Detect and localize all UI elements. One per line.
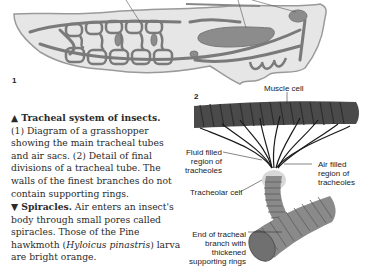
- figure-2-number: 2: [194, 92, 198, 101]
- triangle-up-icon: ▲: [11, 112, 18, 123]
- caption-tracheal-system: ▲ Tracheal system of insects. (1) Diagra…: [11, 112, 191, 200]
- label-tracheolar-cell: Tracheolar cell: [190, 188, 242, 197]
- caption-title: Spiracles.: [21, 201, 72, 212]
- triangle-down-icon: ▼: [11, 201, 18, 212]
- caption-title: Tracheal system of insects.: [21, 112, 160, 123]
- label-muscle-cell: Muscle cell: [264, 84, 304, 93]
- species-name: Hyloicus pinastris: [66, 239, 150, 250]
- label-end-of-tracheal-branch: End of tracheal branch with thickened su…: [186, 230, 246, 266]
- label-air-filled-region: Air filled region of tracheoles: [318, 160, 370, 187]
- caption-spiracles: ▼ Spiracles. Air enters an insect's body…: [11, 201, 191, 264]
